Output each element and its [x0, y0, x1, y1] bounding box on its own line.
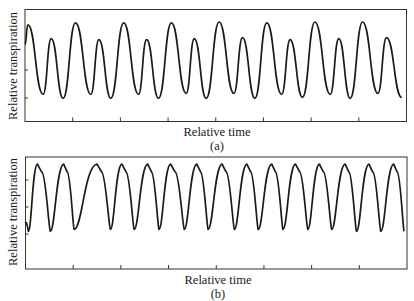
panel-a-frame: [25, 10, 407, 122]
panel-b-ylabel: Relative transpiration: [6, 157, 20, 266]
panel-b-xlabel: Relative time: [185, 273, 252, 287]
panel-b-label: (b): [211, 287, 226, 301]
panel-a: Relative transpiration Relative time (a): [6, 10, 407, 154]
figure: Relative transpiration Relative time (a)…: [0, 0, 414, 301]
panel-b: Relative transpiration Relative time (b): [6, 157, 407, 301]
panel-a-label: (a): [210, 139, 224, 153]
panel-b-waveform: [26, 164, 405, 231]
panel-a-waveform: [25, 22, 402, 98]
panel-a-ylabel: Relative transpiration: [6, 11, 20, 120]
panel-a-xlabel: Relative time: [184, 125, 251, 139]
panel-a-ticks: [25, 70, 359, 122]
